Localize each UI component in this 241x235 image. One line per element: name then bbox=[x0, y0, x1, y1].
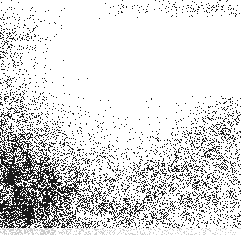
scatter-figure bbox=[0, 0, 241, 235]
point-density-scatter-canvas bbox=[0, 0, 241, 235]
